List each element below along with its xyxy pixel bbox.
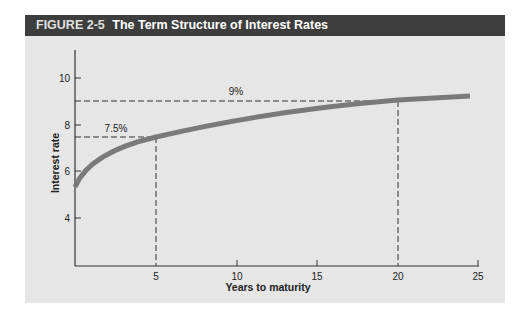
x-tick-label: 25 (472, 271, 484, 282)
annotation-7-5-percent: 7.5% (105, 123, 128, 134)
y-axis-title: Interest rate (49, 133, 61, 193)
yield-curve (75, 96, 470, 187)
annotation-9-percent: 9% (229, 86, 244, 97)
y-ticks: 10 8 6 4 (59, 73, 81, 224)
y-tick-label: 10 (59, 73, 71, 84)
term-structure-chart: 10 8 6 4 5 10 15 20 25 7.5% 9% Years to … (0, 0, 529, 319)
x-tick-label: 20 (392, 271, 404, 282)
x-tick-label: 5 (153, 271, 159, 282)
y-tick-label: 4 (64, 213, 70, 224)
x-axis-title: Years to maturity (225, 281, 310, 293)
x-ticks: 5 10 15 20 25 (153, 260, 484, 282)
y-tick-label: 6 (64, 166, 70, 177)
y-tick-label: 8 (64, 120, 70, 131)
x-tick-label: 15 (311, 271, 323, 282)
